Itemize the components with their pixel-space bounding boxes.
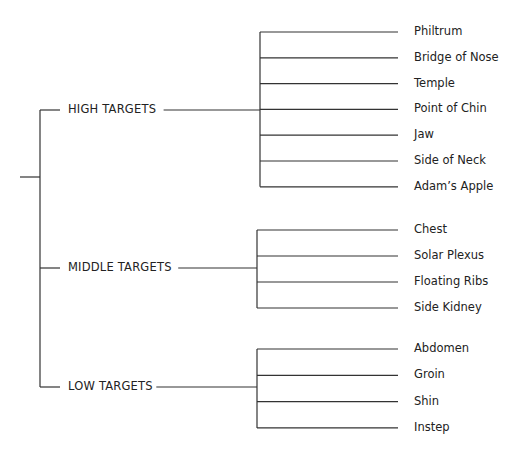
leaf-label: Shin [414, 394, 439, 408]
leaf-label: Abdomen [414, 341, 469, 355]
leaf-label: Temple [414, 76, 455, 90]
category-label: MIDDLE TARGETS [68, 260, 172, 274]
leaf-label: Bridge of Nose [414, 50, 499, 64]
leaf-label: Adam’s Apple [414, 179, 493, 193]
leaf-label: Solar Plexus [414, 248, 484, 262]
leaf-label: Side Kidney [414, 300, 482, 314]
leaf-label: Point of Chin [414, 101, 487, 115]
leaf-label: Groin [414, 367, 445, 381]
category-label: LOW TARGETS [68, 379, 153, 393]
leaf-label: Instep [414, 420, 450, 434]
leaf-label: Philtrum [414, 24, 462, 38]
leaf-label: Chest [414, 222, 447, 236]
leaf-label: Side of Neck [414, 153, 486, 167]
category-label: HIGH TARGETS [68, 102, 156, 116]
leaf-label: Floating Ribs [414, 274, 488, 288]
leaf-label: Jaw [414, 127, 434, 141]
